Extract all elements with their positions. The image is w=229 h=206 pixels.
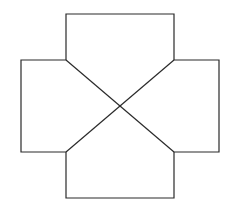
panel-right [174, 60, 219, 152]
panel-left [21, 60, 66, 152]
cross-net-diagram [0, 0, 229, 206]
panel-bottom [66, 152, 174, 198]
panel-top [66, 14, 174, 60]
diagonal-lines [66, 60, 174, 152]
